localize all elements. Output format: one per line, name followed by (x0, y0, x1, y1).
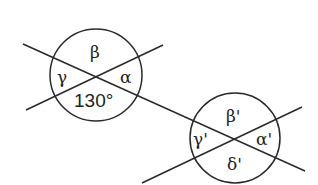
angle-label-130: 130° (74, 90, 113, 111)
angle-label-delta-prime: δ' (227, 154, 242, 174)
line-b (142, 107, 302, 183)
angle-label-alpha-prime: α' (256, 129, 272, 149)
diagram-svg: β γ α 130° β' γ' α' δ' (0, 0, 318, 185)
angle-label-alpha: α (120, 67, 132, 87)
angle-label-gamma-prime: γ' (193, 129, 208, 149)
angle-label-beta: β (90, 42, 100, 62)
angle-diagram: β γ α 130° β' γ' α' δ' (0, 0, 318, 185)
angle-label-beta-prime: β' (226, 106, 241, 126)
transversal-line (23, 44, 305, 171)
angle-label-gamma: γ (57, 67, 67, 87)
